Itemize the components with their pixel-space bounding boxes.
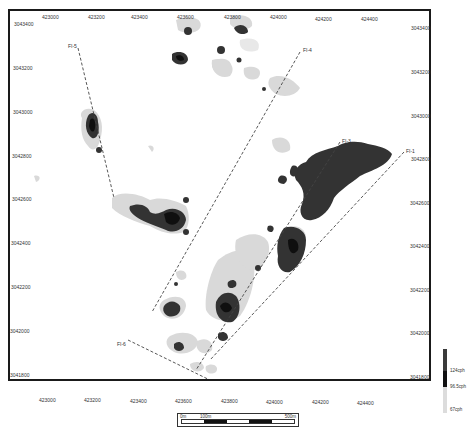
legend-label: 96.5cph	[450, 385, 466, 390]
x-tick-top: 424200	[315, 17, 332, 22]
y-tick-left: 3042000	[10, 329, 29, 334]
x-tick-top: 423400	[131, 15, 148, 20]
y-tick-left: 3042400	[11, 241, 30, 246]
scale-track	[181, 419, 295, 424]
x-tick-bottom: 423000	[39, 398, 56, 403]
map-frame: FI-5 FI-4 FI-3 FI-1 FI-6	[8, 9, 431, 381]
legend-label: 67cph	[450, 408, 462, 413]
y-tick-left: 3043400	[14, 22, 33, 27]
legend: 124cph 96.5cph 67cph	[443, 349, 476, 421]
scale-segment	[182, 420, 204, 423]
x-tick-bottom: 423400	[130, 399, 147, 404]
flight-line-fi-3	[196, 142, 340, 370]
x-tick-top: 423000	[42, 15, 59, 20]
x-tick-top: 423600	[177, 15, 194, 20]
x-tick-bottom: 424400	[357, 401, 374, 406]
y-tick-left: 3042600	[12, 197, 31, 202]
y-tick-right: 3042600	[410, 201, 429, 206]
y-tick-right: 3043000	[411, 114, 430, 119]
legend-swatch-high	[443, 349, 447, 371]
low-intensity-zones	[34, 15, 306, 373]
very-high-cores	[89, 55, 298, 312]
x-tick-top: 424000	[270, 15, 287, 20]
scale-segment	[204, 420, 226, 423]
legend-label: 124cph	[450, 369, 465, 374]
legend-swatch-low	[443, 387, 447, 413]
y-tick-right: 3042800	[411, 157, 430, 162]
y-tick-left: 3042200	[11, 285, 30, 290]
scale-segment	[272, 420, 294, 423]
x-tick-bottom: 424200	[312, 400, 329, 405]
x-tick-bottom: 424000	[266, 400, 283, 405]
y-tick-right: 3042000	[410, 331, 429, 336]
y-tick-right: 3042400	[410, 244, 429, 249]
y-tick-right: 3041800	[410, 375, 429, 380]
x-tick-top: 423200	[88, 15, 105, 20]
y-tick-left: 3043000	[13, 110, 32, 115]
label-fi-1: FI-1	[406, 148, 415, 154]
legend-swatch-very-high	[443, 371, 447, 387]
y-tick-right: 3043200	[411, 70, 430, 75]
scale-bar: 0m 100m 500m	[177, 413, 299, 427]
x-tick-bottom: 423800	[221, 399, 238, 404]
y-tick-right: 3043400	[411, 26, 430, 31]
scale-segment	[249, 420, 271, 423]
y-tick-left: 3043200	[13, 66, 32, 71]
label-fi-3: FI-3	[342, 138, 351, 144]
scale-segment	[227, 420, 249, 423]
label-fi-4: FI-4	[303, 47, 312, 53]
contour-map: FI-5 FI-4 FI-3 FI-1 FI-6	[10, 11, 429, 379]
y-tick-left: 3042800	[12, 154, 31, 159]
label-fi-6: FI-6	[117, 341, 126, 347]
label-fi-5: FI-5	[68, 43, 77, 49]
x-tick-top: 424400	[361, 17, 378, 22]
x-tick-bottom: 423200	[84, 398, 101, 403]
x-tick-top: 423800	[224, 15, 241, 20]
y-tick-right: 3042200	[410, 288, 429, 293]
x-tick-bottom: 423600	[175, 399, 192, 404]
y-tick-left: 3041800	[10, 373, 29, 378]
